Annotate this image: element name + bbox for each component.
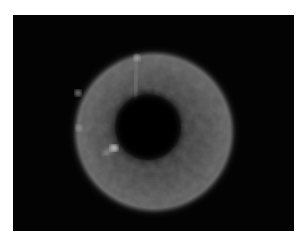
ring-particle — [13, 15, 294, 231]
micrograph-image — [13, 15, 294, 231]
